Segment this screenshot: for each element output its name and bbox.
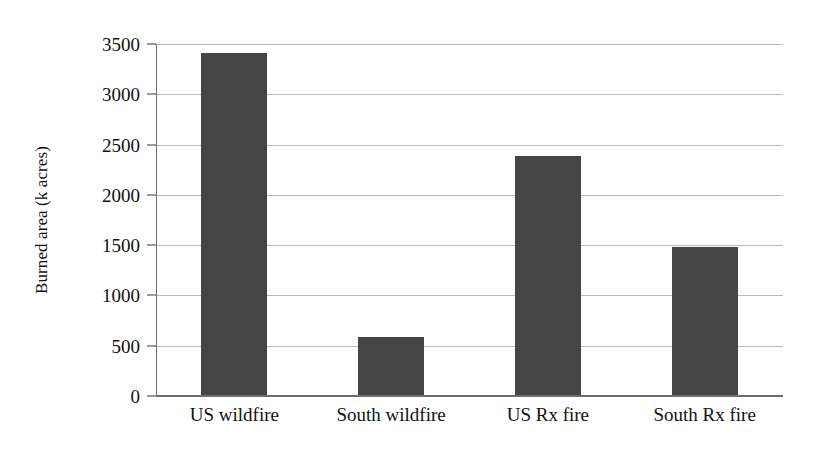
x-axis-tick-label: South wildfire: [337, 404, 446, 427]
bar: [201, 53, 267, 395]
y-axis-tick-mark: [147, 295, 156, 296]
y-axis-tick-label: 1500: [102, 236, 140, 255]
x-axis-tick-label: US wildfire: [190, 404, 279, 427]
y-axis-tick-mark: [147, 194, 156, 195]
bar: [672, 247, 738, 395]
gridline: [156, 396, 783, 397]
y-axis-tick-mark: [147, 144, 156, 145]
x-axis-tick-label-group: US wildfireSouth wildfireUS Rx fireSouth…: [156, 404, 783, 438]
bar-chart: Burned area (k acres) 050010001500200025…: [0, 0, 815, 462]
y-axis-tick-mark: [147, 396, 156, 397]
y-axis-tick-mark: [147, 245, 156, 246]
y-axis-tick-label: 1000: [102, 286, 140, 305]
y-axis-tick-mark: [147, 345, 156, 346]
y-axis-tick-label: 3500: [102, 35, 140, 54]
bar-group: [156, 44, 783, 396]
y-axis-tick-mark: [147, 44, 156, 45]
bar: [358, 337, 424, 395]
y-axis-tick-label: 500: [112, 336, 141, 355]
y-axis-tick-label: 3000: [102, 85, 140, 104]
y-axis-tick-label: 2500: [102, 135, 140, 154]
y-axis-tick-label: 0: [131, 387, 141, 406]
y-axis-tick-label: 2000: [102, 185, 140, 204]
bar: [515, 156, 581, 395]
plot-area: [156, 44, 783, 396]
y-axis-tick-mark: [147, 94, 156, 95]
y-axis-tick-label-group: 0500100015002000250030003500: [48, 44, 156, 396]
x-axis-tick-label: US Rx fire: [507, 404, 589, 427]
x-axis-tick-label: South Rx fire: [653, 404, 755, 427]
